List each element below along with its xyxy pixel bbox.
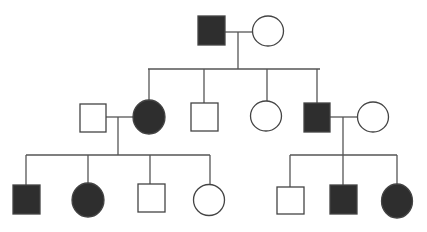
individual-II-3-unaffected-female (251, 101, 282, 131)
individual-II-4-affected-male (304, 103, 330, 132)
pedigree-chart (0, 0, 427, 232)
individual-I-2-unaffected-female (253, 16, 284, 46)
individual-II-spouse2-unaffected-female (358, 102, 389, 132)
individual-III-5-unaffected-male (277, 187, 304, 214)
individual-II-2-unaffected-male (191, 103, 218, 131)
individual-III-3-unaffected-male (138, 184, 165, 212)
individual-III-2-affected-female (72, 183, 104, 217)
individual-III-7-affected-female (382, 184, 413, 218)
individual-III-1-affected-male (13, 185, 40, 214)
individual-II-spouse1-unaffected-male (80, 104, 106, 132)
individual-II-1-affected-female (133, 100, 165, 134)
individual-III-6-affected-male (330, 185, 357, 214)
individual-I-1-affected-male (198, 16, 225, 45)
individual-III-4-unaffected-female (194, 185, 225, 216)
